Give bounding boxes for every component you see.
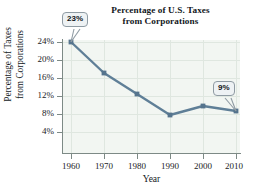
data-line xyxy=(71,42,236,115)
callout-tail-right-2 xyxy=(231,98,236,111)
data-series-layer xyxy=(0,0,257,192)
data-point-marker xyxy=(135,92,140,97)
data-point-marker xyxy=(201,104,206,109)
callout-first-point: 23% xyxy=(62,12,88,27)
callout-last-point: 9% xyxy=(213,81,235,96)
data-point-marker xyxy=(168,113,173,118)
chart-figure: Percentage of U.S. Taxes from Corporatio… xyxy=(0,0,257,192)
data-point-marker xyxy=(102,71,107,76)
